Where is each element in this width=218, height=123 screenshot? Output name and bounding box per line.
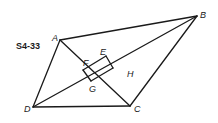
diagonal-db — [33, 16, 197, 107]
diagram-svg: S4-33 A B C D E F G H — [0, 0, 218, 123]
segment-bc — [130, 16, 197, 106]
figure-id-label: S4-33 — [16, 41, 40, 51]
point-label-h: H — [127, 69, 134, 79]
segment-cd — [33, 106, 130, 107]
geometry-diagram: S4-33 A B C D E F G H — [0, 0, 218, 123]
point-label-d: D — [24, 104, 31, 114]
point-label-g: G — [89, 84, 96, 94]
point-label-f: F — [83, 58, 89, 68]
point-label-a: A — [51, 33, 58, 43]
point-label-c: C — [134, 104, 141, 114]
point-label-b: B — [200, 10, 206, 20]
point-label-e: E — [100, 47, 107, 57]
